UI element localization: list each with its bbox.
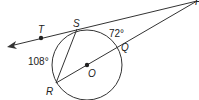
- label-s: S: [73, 18, 80, 29]
- arc-rs-measure: 108°: [28, 56, 49, 67]
- point-t: [39, 36, 43, 40]
- label-o: O: [88, 68, 96, 79]
- label-t: T: [38, 24, 45, 35]
- label-r: R: [46, 86, 53, 97]
- arc-sq-measure: 72°: [109, 28, 124, 39]
- geometry-diagram: P S T Q O R 72° 108°: [0, 0, 199, 100]
- label-p: P: [195, 0, 199, 7]
- label-q: Q: [121, 42, 129, 53]
- point-o: [85, 63, 89, 67]
